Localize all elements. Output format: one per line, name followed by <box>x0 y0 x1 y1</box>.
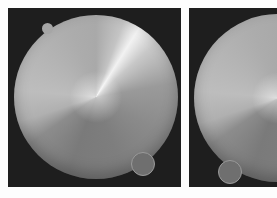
image-panel-left <box>8 8 181 187</box>
marker-circle-right <box>218 160 242 184</box>
image-panel-right <box>189 8 277 187</box>
disc-right <box>194 14 277 182</box>
figure <box>0 0 277 198</box>
marker-circle-left <box>131 152 155 176</box>
disc-left <box>14 15 178 179</box>
notch-tab <box>42 23 53 34</box>
